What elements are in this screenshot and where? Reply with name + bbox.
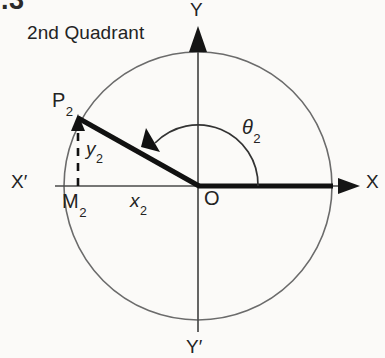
label-point-p2-subscript: 2 [66,104,73,119]
label-axis-y-positive: Y [190,0,203,19]
label-angle-theta2-base: θ [242,116,253,138]
label-abscissa-x2: x2 [130,191,147,210]
label-angle-theta2-subscript: 2 [253,131,260,146]
label-point-p2-base: P [52,89,65,111]
label-point-p2: P2 [52,90,73,110]
label-axis-x-negative: X′ [11,172,27,191]
x-axis-arrowhead-icon [338,178,360,194]
trigonometry-figure: .3 2nd Quadrant P2 y2 M2 x2 O θ2 X′ X Y … [0,0,385,358]
y-axis-arrowhead-icon [189,26,207,52]
label-origin: O [204,188,220,208]
label-angle-theta2: θ2 [242,117,261,137]
label-ordinate-y2: y2 [86,139,103,158]
label-abscissa-x2-subscript: 2 [140,204,147,218]
label-abscissa-x2-base: x [130,190,140,211]
label-foot-m2: M2 [62,191,87,211]
figure-number-partial: .3 [1,0,25,14]
figure-canvas [0,0,385,358]
label-ordinate-y2-base: y [86,138,96,159]
label-ordinate-y2-subscript: 2 [96,152,103,166]
label-foot-m2-subscript: 2 [79,205,86,220]
label-foot-m2-base: M [62,190,79,212]
quadrant-label: 2nd Quadrant [27,23,144,42]
label-axis-y-negative: Y′ [186,337,202,356]
label-axis-x-positive: X [366,172,379,191]
